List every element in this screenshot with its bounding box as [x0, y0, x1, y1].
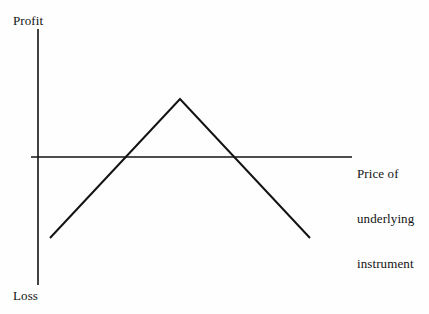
- profit-axis-label: Profit: [13, 13, 43, 28]
- payoff-line: [50, 99, 310, 238]
- price-axis-label-line-2: underlying: [357, 211, 414, 226]
- price-axis-label: Price of underlying instrument: [357, 136, 414, 301]
- payoff-diagram-figure: Profit Loss Price of underlying instrume…: [0, 0, 429, 314]
- price-axis-label-line-1: Price of: [357, 166, 414, 181]
- loss-axis-label: Loss: [13, 288, 38, 303]
- price-axis-label-line-3: instrument: [357, 256, 414, 271]
